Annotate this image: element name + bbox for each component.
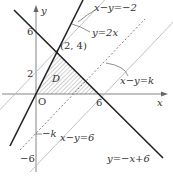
point-label: (2, 4) <box>60 40 87 51</box>
label-l1: x−y=−2 <box>94 2 137 13</box>
y-axis-label: y <box>40 5 47 16</box>
tick-yneg6: −6 <box>20 153 35 164</box>
leader-l1 <box>78 10 95 22</box>
region-d <box>36 52 99 94</box>
tick-y6: 6 <box>27 26 33 37</box>
y-axis-arrow <box>34 5 39 12</box>
region-label: D <box>51 73 60 84</box>
point-2-4 <box>56 51 58 53</box>
x-axis-label: x <box>157 97 163 108</box>
label-l3: x−y=k <box>120 75 154 86</box>
origin-label: O <box>38 96 46 107</box>
label-l2: y=2x <box>91 27 118 38</box>
tick-yk: −k <box>42 128 56 139</box>
x-axis-arrow <box>161 92 168 97</box>
diagram: y x O 6 2 6 −6 −k (2, 4) D x−y=−2 y=2x x… <box>0 0 173 177</box>
tick-y2: 2 <box>27 68 33 79</box>
label-l4: x−y=6 <box>60 132 95 143</box>
tick-x6: 6 <box>96 97 102 108</box>
label-l5: y=−x+6 <box>106 153 150 164</box>
